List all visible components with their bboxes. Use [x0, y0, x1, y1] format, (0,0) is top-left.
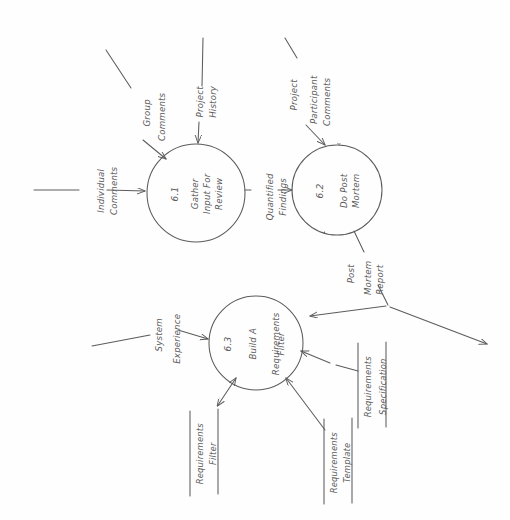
flow-arrow-group-comments — [106, 50, 166, 159]
process-circle-6-2 — [292, 145, 382, 235]
diagram-vector-layer — [0, 0, 510, 520]
process-circle-6-3 — [209, 296, 303, 390]
flow-arrow-system-experience — [92, 330, 208, 346]
data-store-requirements-filter — [190, 409, 218, 496]
flow-arrow-project-participant-comments — [285, 38, 325, 145]
process-circle-6-1 — [147, 144, 245, 242]
flow-arrow-project-history — [198, 38, 203, 143]
data-store-requirements-specification — [358, 342, 386, 428]
data-store-requirements-template — [324, 418, 352, 504]
flow-arrow-requirements-filter — [218, 378, 236, 405]
flow-arrow-requirements-specification — [301, 351, 358, 371]
flow-arrow-post-mortem-report — [310, 231, 487, 344]
flow-arrow-individual-comments — [34, 190, 145, 191]
flow-arrow-requirements-template — [286, 378, 325, 430]
diagram-canvas: 6.1 Gather Input For Review 6.2 Do Post … — [0, 0, 510, 520]
